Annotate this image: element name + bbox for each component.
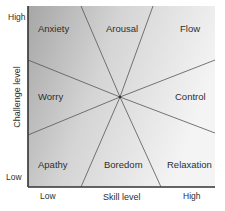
x-axis-high: High (183, 191, 201, 201)
region-boredom: Boredom (104, 159, 143, 170)
region-relaxation: Relaxation (167, 159, 212, 170)
region-arousal: Arousal (106, 23, 138, 34)
y-axis-high: High (8, 12, 26, 22)
x-axis-title: Skill level (103, 192, 141, 202)
region-anxiety: Anxiety (38, 23, 69, 34)
flow-diagram: Anxiety Arousal Flow Worry Control Apath… (0, 0, 225, 211)
y-axis-low: Low (6, 172, 22, 182)
region-control: Control (175, 91, 206, 102)
cut-off-body-text (0, 205, 225, 211)
region-worry: Worry (38, 91, 63, 102)
y-axis-title: Challenge level (12, 66, 22, 128)
center-point (119, 96, 122, 99)
x-axis-low: Low (40, 191, 56, 201)
region-flow: Flow (180, 23, 200, 34)
region-apathy: Apathy (38, 159, 68, 170)
